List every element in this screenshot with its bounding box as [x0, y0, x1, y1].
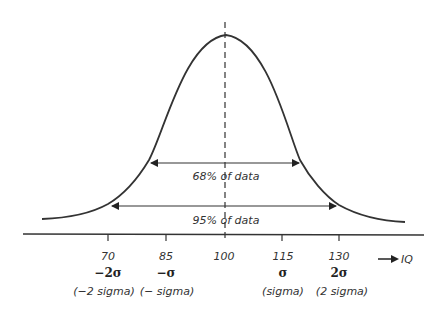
- axis-arrowhead-icon: [391, 255, 399, 263]
- tick-desc-plus2: (2 sigma): [316, 285, 368, 298]
- x-axis: [23, 234, 424, 235]
- x-axis-label: IQ: [401, 253, 413, 266]
- band-95-label: 95% of data: [193, 214, 260, 227]
- tick-sigma-minus1: −σ: [157, 266, 176, 280]
- tick-value-85: 85: [159, 250, 173, 263]
- tick-value-70: 70: [101, 250, 115, 263]
- tick-desc-plus1: (sigma): [262, 285, 304, 298]
- tick-value-115: 115: [273, 250, 294, 263]
- tick-sigma-minus2: −2σ: [94, 266, 121, 280]
- normal-distribution-diagram: 68% of data 95% of data 70 85 100 115 13…: [0, 0, 442, 314]
- tick-sigma-plus2: 2σ: [330, 266, 347, 280]
- tick-value-130: 130: [329, 250, 350, 263]
- tick-desc-minus2: (−2 sigma): [73, 285, 135, 298]
- band-68-label: 68% of data: [193, 170, 260, 183]
- tick-desc-minus1: (− sigma): [140, 285, 195, 298]
- tick-sigma-plus1: σ: [279, 266, 288, 280]
- tick-value-100: 100: [214, 250, 235, 263]
- bell-curve: [42, 35, 405, 222]
